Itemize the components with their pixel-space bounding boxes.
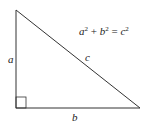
pythagorean-equation: a2 + b2 = c2	[79, 26, 129, 37]
eq-plus: +	[91, 25, 97, 37]
eq-b-exp: 2	[105, 25, 109, 33]
eq-a-exp: 2	[85, 25, 89, 33]
label-leg-b: b	[72, 112, 78, 123]
label-leg-a: a	[8, 54, 14, 65]
eq-equals: =	[111, 25, 117, 37]
right-angle-marker	[16, 97, 26, 108]
label-hypotenuse-c: c	[85, 52, 90, 63]
eq-c-exp: 2	[125, 25, 129, 33]
